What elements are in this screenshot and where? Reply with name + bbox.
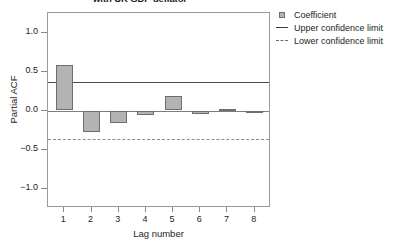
lower-confidence-limit-line <box>48 139 269 140</box>
legend-swatch-icon <box>274 9 290 20</box>
chart-legend: Coefficient Upper confidence limit Lower… <box>274 9 396 48</box>
y-tick-label: 1.0 <box>4 27 38 36</box>
legend-solid-line-icon <box>274 22 290 33</box>
pacf-chart: with UK GDP deflator Partial ACF 1.00.50… <box>0 0 396 243</box>
legend-item-lower-limit: Lower confidence limit <box>274 35 396 47</box>
y-tick-label-wrap: −1.0 <box>0 183 38 192</box>
bar-lag-3 <box>110 111 127 123</box>
y-tick-label: −0.5 <box>4 144 38 153</box>
bar-lag-2 <box>83 111 100 132</box>
x-tick-mark <box>172 207 173 212</box>
x-tick-label-3: 3 <box>108 214 128 224</box>
x-tick-label-6: 6 <box>189 214 209 224</box>
x-tick-label-1: 1 <box>53 214 73 224</box>
plot-inner <box>48 13 269 206</box>
y-tick-label-wrap: 0.5 <box>0 66 38 75</box>
x-tick-mark <box>145 207 146 212</box>
legend-label-coefficient: Coefficient <box>290 10 336 20</box>
x-tick-label-4: 4 <box>135 214 155 224</box>
x-tick-label-8: 8 <box>244 214 264 224</box>
x-tick-mark <box>118 207 119 212</box>
y-tick-label-wrap: 0.0 <box>0 105 38 114</box>
y-tick-label-wrap: 1.0 <box>0 27 38 36</box>
x-tick-mark <box>199 207 200 212</box>
y-tick-label-wrap: −0.5 <box>0 144 38 153</box>
x-tick-label-2: 2 <box>81 214 101 224</box>
x-tick-mark <box>63 207 64 212</box>
x-tick-label-5: 5 <box>162 214 182 224</box>
upper-confidence-limit-line <box>48 82 269 83</box>
legend-label-upper-limit: Upper confidence limit <box>290 23 383 33</box>
legend-dashed-line-icon <box>274 35 290 46</box>
y-tick-label: −1.0 <box>4 183 38 192</box>
bar-lag-1 <box>56 65 73 110</box>
legend-label-lower-limit: Lower confidence limit <box>290 36 383 46</box>
bar-lag-4 <box>137 111 154 116</box>
bar-lag-5 <box>165 96 182 110</box>
x-tick-mark <box>226 207 227 212</box>
legend-item-coefficient: Coefficient <box>274 9 396 21</box>
x-axis-title: Lag number <box>47 228 270 239</box>
zero-line <box>48 111 269 112</box>
bar-lag-8 <box>246 111 263 113</box>
x-tick-label-7: 7 <box>216 214 236 224</box>
y-tick-label: 0.0 <box>4 105 38 114</box>
plot-area <box>47 12 270 207</box>
chart-title: with UK GDP deflator <box>0 0 280 4</box>
y-tick-label: 0.5 <box>4 66 38 75</box>
legend-item-upper-limit: Upper confidence limit <box>274 22 396 34</box>
x-tick-mark <box>254 207 255 212</box>
bar-lag-7 <box>219 109 236 111</box>
bar-lag-6 <box>192 111 209 114</box>
x-tick-mark <box>91 207 92 212</box>
